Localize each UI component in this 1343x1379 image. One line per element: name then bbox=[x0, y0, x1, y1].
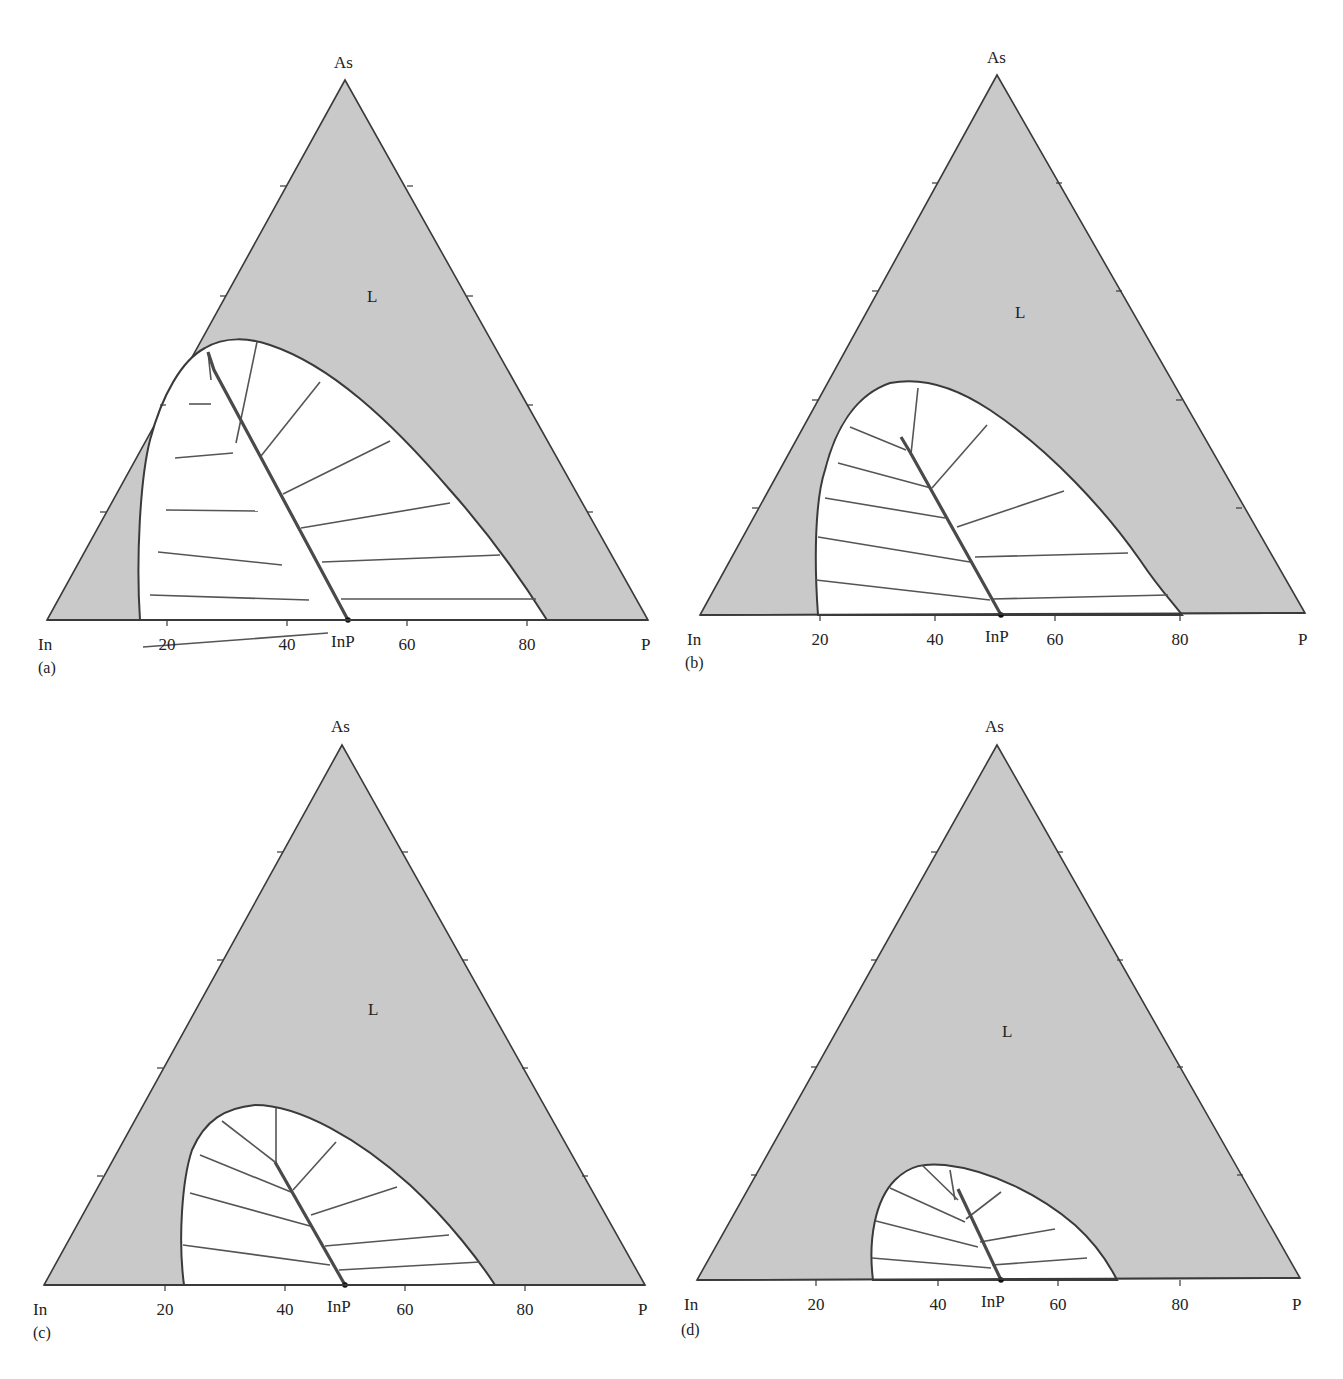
tick-label: 60 bbox=[399, 635, 416, 654]
inp-point bbox=[998, 612, 1004, 618]
compound-label-inp: InP bbox=[331, 632, 355, 651]
panel-label: (c) bbox=[33, 1324, 51, 1342]
vertex-label-in: In bbox=[687, 630, 702, 649]
panel-label: (a) bbox=[38, 659, 56, 677]
tie-line bbox=[166, 510, 258, 511]
tick-label: 80 bbox=[519, 635, 536, 654]
phase-diagram-figure: 20406080AsInPInPL(a)20406080AsInPInPL(b)… bbox=[0, 0, 1343, 1379]
tick-label: 60 bbox=[1047, 630, 1064, 649]
tick-label: 20 bbox=[159, 635, 176, 654]
panel-label: (b) bbox=[685, 654, 704, 672]
vertex-label-as: As bbox=[334, 53, 353, 72]
tick-label: 80 bbox=[1172, 630, 1189, 649]
compound-label-inp: InP bbox=[981, 1292, 1005, 1311]
vertex-label-p: P bbox=[641, 635, 650, 654]
panel-b: 20406080AsInPInPL(b) bbox=[685, 48, 1307, 672]
compound-label-inp: InP bbox=[985, 627, 1009, 646]
tick-label: 40 bbox=[927, 630, 944, 649]
panel-c: 20406080AsInPInPL(c) bbox=[33, 717, 647, 1342]
vertex-label-p: P bbox=[638, 1300, 647, 1319]
vertex-label-in: In bbox=[38, 635, 53, 654]
panel-a: 20406080AsInPInPL(a) bbox=[38, 53, 650, 677]
liquid-region-label: L bbox=[1015, 303, 1025, 322]
tick-label: 40 bbox=[930, 1295, 947, 1314]
vertex-label-as: As bbox=[331, 717, 350, 736]
vertex-label-p: P bbox=[1292, 1295, 1301, 1314]
tick-label: 20 bbox=[812, 630, 829, 649]
panel-d: 20406080AsInPInPL(d) bbox=[681, 717, 1301, 1339]
vertex-label-as: As bbox=[985, 717, 1004, 736]
tick-label: 60 bbox=[397, 1300, 414, 1319]
tick-label: 20 bbox=[808, 1295, 825, 1314]
liquid-region-label: L bbox=[367, 287, 377, 306]
vertex-label-in: In bbox=[684, 1295, 699, 1314]
panel-label: (d) bbox=[681, 1321, 700, 1339]
vertex-label-in: In bbox=[33, 1300, 48, 1319]
vertex-label-p: P bbox=[1298, 630, 1307, 649]
liquid-region-label: L bbox=[368, 1000, 378, 1019]
inp-point bbox=[998, 1277, 1004, 1283]
tick-label: 60 bbox=[1050, 1295, 1067, 1314]
vertex-label-as: As bbox=[987, 48, 1006, 67]
compound-label-inp: InP bbox=[327, 1297, 351, 1316]
tick-label: 40 bbox=[279, 635, 296, 654]
tick-label: 40 bbox=[277, 1300, 294, 1319]
tick-label: 80 bbox=[517, 1300, 534, 1319]
liquid-region-label: L bbox=[1002, 1022, 1012, 1041]
tick-label: 20 bbox=[157, 1300, 174, 1319]
tick-label: 80 bbox=[1172, 1295, 1189, 1314]
